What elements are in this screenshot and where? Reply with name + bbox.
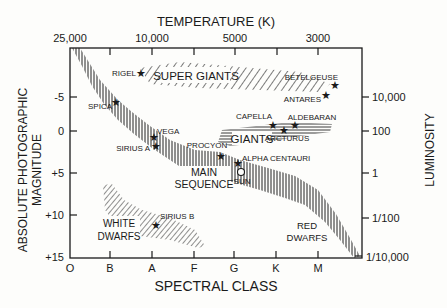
right-axis-title: LUMINOSITY [423,113,437,186]
sun-circle-icon [238,169,245,176]
bottom-tick-label: O [66,262,75,274]
white-dwarfs-label-line2: DWARFS [98,231,141,242]
right-tick-label: 10,000 [372,91,406,103]
left-tick-label: +10 [45,209,64,221]
top-tick-label: 25,000 [53,32,87,44]
hr-diagram: TEMPERATURE (K) 25,000 10,000 5000 3000 [0,0,447,308]
right-tick-label: 1/10,000 [366,251,409,263]
left-tick-label: -5 [54,91,64,103]
left-axis-title-line2: MAGNITUDE [30,134,44,206]
star-label-sun: SUN [234,177,251,186]
bottom-tick-label: G [230,262,239,274]
bottom-ticks [110,251,318,258]
star-icon: ★ [216,150,226,162]
super-giants-label: SUPER GIANTS [153,70,239,82]
right-tick-label: 1 [372,167,378,179]
bottom-axis-title: SPECTRAL CLASS [154,278,277,294]
star-label-procyon: PROCYON [187,141,228,150]
main-sequence-label-line1: MAIN [191,166,217,178]
star-label-spica: SPICA [88,102,113,111]
bottom-tick-label: F [191,262,198,274]
star-icon: ★ [233,157,243,169]
star-label-vega: VEGA [157,127,180,136]
star-label-sirius-b: SIRIUS B [160,212,194,221]
star-label-sirius-a: SIRIUS A [116,144,150,153]
red-dwarfs-label-line2: DWARFS [287,232,328,243]
left-tick-label: +15 [45,251,64,263]
star-label-alpha-centauri: ALPHA CENTAURI [242,154,310,163]
star-label-rigel: RIGEL [112,69,137,78]
left-tick-label: +5 [51,167,64,179]
top-tick-label: 3000 [306,32,330,44]
star-icon: ★ [151,140,161,152]
left-ticks [70,97,77,215]
bottom-tick-label: A [148,262,156,274]
star-icon: ★ [268,119,278,131]
left-tick-label: 0 [58,125,64,137]
star-icon: ★ [151,219,161,231]
top-tick-label: 10,000 [135,32,169,44]
main-sequence-label-line2: SEQUENCE [175,178,234,190]
star-icon: ★ [330,79,340,91]
star-icon: ★ [279,124,289,136]
star-icon: ★ [290,119,300,131]
red-dwarfs-label-line1: RED [297,220,317,231]
top-tick-label: 5000 [223,32,247,44]
white-dwarfs-label-line1: WHITE [103,218,136,229]
bottom-tick-label: M [313,262,322,274]
bottom-tick-label: B [106,262,113,274]
star-label-antares: ANTARES [284,95,321,104]
right-tick-label: 1/100 [372,212,400,224]
star-icon: ★ [111,96,121,108]
top-ticks [110,48,318,55]
top-axis-title: TEMPERATURE (K) [157,14,275,29]
bottom-tick-label: K [272,262,280,274]
left-axis-title-line1: ABSOLUTE PHOTOGRAPHIC [16,87,30,252]
star-icon: ★ [136,67,146,79]
right-tick-label: 100 [372,125,390,137]
star-icon: ★ [321,89,331,101]
